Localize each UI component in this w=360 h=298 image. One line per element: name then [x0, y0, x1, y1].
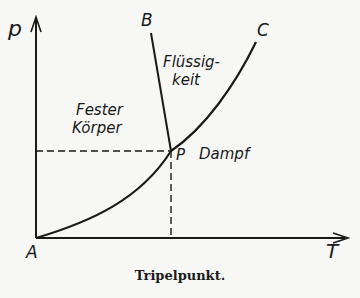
- point-b-label: B: [141, 10, 153, 30]
- region-solid-label-line2: Körper: [72, 119, 122, 137]
- triple-point-diagram: p T A P B C Fester Körper Flüssig- keit …: [0, 0, 360, 298]
- point-p-label: P: [176, 146, 186, 164]
- y-axis-label: p: [7, 16, 22, 41]
- point-c-label: C: [257, 20, 269, 40]
- region-solid-label-line1: Fester: [76, 101, 124, 119]
- sublimation-curve: [36, 151, 171, 238]
- figure-caption: Tripelpunkt.: [135, 268, 225, 283]
- melting-curve: [151, 33, 171, 151]
- region-liquid-label-line2: keit: [172, 71, 201, 89]
- region-vapor-label: Dampf: [199, 145, 252, 163]
- region-liquid-label-line1: Flüssig-: [163, 53, 220, 71]
- x-axis-label: T: [326, 239, 340, 263]
- point-a-label: A: [25, 242, 38, 262]
